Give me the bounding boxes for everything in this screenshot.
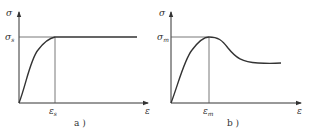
x-level-label-a: εs <box>49 106 57 117</box>
stress-strain-diagrams: σ σs εs ε a ) σ σm εm ε b ) <box>0 0 313 133</box>
caption-b: b ) <box>227 118 239 128</box>
x-axis-label-b: ε <box>297 106 302 116</box>
stress-strain-curve-a <box>19 37 137 103</box>
figure-b: σ σm εm ε b ) <box>157 8 302 128</box>
x-axis-label-a: ε <box>145 106 150 116</box>
y-axis-label-a: σ <box>6 8 13 18</box>
x-level-label-b: εm <box>203 106 214 117</box>
caption-a: a ) <box>74 118 86 128</box>
figure-a: σ σs εs ε a ) <box>5 8 150 128</box>
stress-strain-curve-b <box>171 37 281 103</box>
y-level-label-b: σm <box>157 32 169 43</box>
y-level-label-a: σs <box>5 32 14 43</box>
y-axis-label-b: σ <box>159 8 166 18</box>
